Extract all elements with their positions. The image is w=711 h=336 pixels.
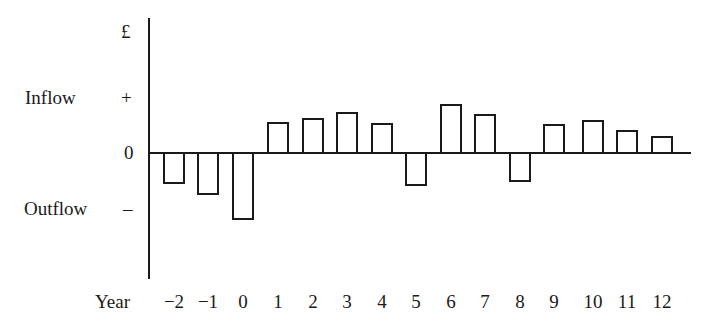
bar-year-7 (475, 115, 495, 153)
x-tick-label: 11 (618, 292, 636, 311)
x-tick-label: 7 (480, 292, 490, 311)
x-tick-label: 1 (273, 292, 283, 311)
x-tick-label: 9 (549, 292, 559, 311)
x-tick-label: 5 (411, 292, 421, 311)
bar-chart (0, 0, 711, 336)
bar-year-4 (372, 124, 392, 153)
x-tick-label: 6 (446, 292, 456, 311)
bar-year-12 (652, 137, 672, 153)
x-tick-label: 10 (584, 292, 603, 311)
bar-year-0 (233, 153, 253, 219)
bar-year--2 (164, 153, 184, 183)
bar-year-10 (583, 121, 603, 153)
x-tick-label: 8 (515, 292, 525, 311)
x-tick-label: −1 (198, 292, 218, 311)
bar-year-2 (303, 119, 323, 153)
x-tick-label: 12 (653, 292, 672, 311)
bar-year-11 (617, 131, 637, 153)
x-tick-label: −2 (164, 292, 184, 311)
x-tick-label: 0 (238, 292, 248, 311)
bar-year-5 (406, 153, 426, 185)
x-tick-label: 4 (377, 292, 387, 311)
x-tick-label: 3 (342, 292, 352, 311)
bar-year-9 (544, 125, 564, 153)
bar-year-8 (510, 153, 530, 181)
bar-year-3 (337, 113, 357, 153)
bar-year-6 (441, 105, 461, 153)
bar-year-1 (268, 123, 288, 153)
bar-year--1 (198, 153, 218, 194)
x-tick-label: 2 (308, 292, 318, 311)
